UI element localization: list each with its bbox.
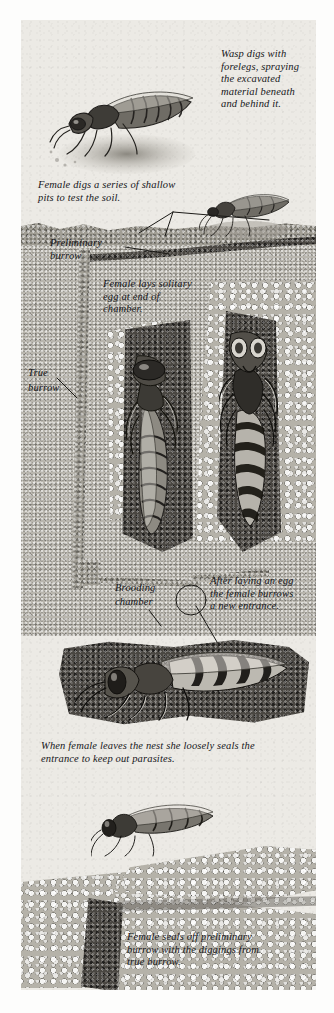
illustration-page: Wasp digs with forelegs, spraying the ex… bbox=[0, 0, 334, 1013]
caption-true-burrow-line1: True bbox=[28, 367, 88, 380]
wasp-digging-new-entrance bbox=[73, 648, 295, 722]
caption-when-female-leaves: When female leaves the nest she loosely … bbox=[41, 740, 306, 765]
caption-preliminary-burrow-line2: burrow bbox=[50, 250, 140, 263]
caption-preliminary-burrow-line1: Preliminary bbox=[50, 237, 140, 250]
caption-female-lays-egg: Female lays solitary egg at end of chamb… bbox=[103, 278, 228, 316]
wasp-sealing-entrance bbox=[91, 802, 219, 858]
wasp-digging-surface bbox=[45, 68, 205, 178]
wasp-in-burrow-front-view bbox=[219, 320, 281, 540]
caption-brooding-chamber-line2: chamber bbox=[115, 596, 191, 609]
caption-after-laying-egg: After laying an egg the female burrows a… bbox=[210, 575, 316, 613]
caption-brooding-chamber-line1: Brooding bbox=[115, 582, 191, 595]
caption-wasp-digs: Wasp digs with forelegs, spraying the ex… bbox=[221, 48, 316, 111]
caption-true-burrow-line2: burrow bbox=[28, 382, 88, 395]
wasp-in-brooding-chamber-side-view bbox=[121, 338, 193, 544]
true-burrow-elbow bbox=[78, 560, 100, 586]
illustration-plate: Wasp digs with forelegs, spraying the ex… bbox=[21, 20, 316, 990]
caption-female-digs-pits: Female digs a series of shallow pits to … bbox=[38, 179, 218, 204]
caption-female-seals-off: Female seals off preliminary burrow with… bbox=[127, 931, 289, 969]
